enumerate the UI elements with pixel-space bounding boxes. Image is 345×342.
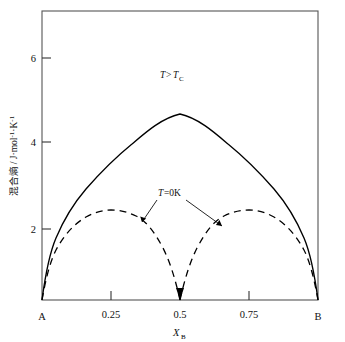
annotation-t-zero-k-op: =0K	[164, 188, 181, 198]
plot-frame	[42, 11, 318, 300]
x-tick-label-05: 0.5	[173, 309, 186, 320]
x-axis-title-sub: B	[181, 333, 186, 341]
x-tick-label-025: 0.25	[102, 309, 120, 320]
y-tick-label-6: 6	[31, 53, 36, 64]
x-tick-label-B: B	[314, 311, 321, 322]
y-tick-label-4: 4	[31, 137, 37, 148]
y-axis-title: 混合熵/ J·mol-1·K-1	[8, 115, 19, 196]
mixing-entropy-chart: 6 4 2 A 0.25 0.5 0.75 B X B 混合熵/ J·mol-1…	[0, 0, 345, 342]
chart-figure: 6 4 2 A 0.25 0.5 0.75 B X B 混合熵/ J·mol-1…	[0, 0, 345, 342]
y-axis-title-mid: ·K	[9, 122, 19, 132]
y-axis-title-cjk: 混合熵	[8, 166, 19, 196]
annotation-t-above-tc-sub: C	[179, 75, 184, 83]
x-axis-title: X B	[172, 327, 186, 341]
annotation-t-above-tc-op: >	[166, 70, 171, 80]
y-tick-label-2: 2	[31, 224, 36, 235]
x-tick-label-075: 0.75	[240, 309, 258, 320]
y-axis-title-exp2: -1	[8, 115, 16, 121]
x-axis-title-main: X	[172, 327, 180, 338]
svg-text:混合熵/ J·mol-1·K-1: 混合熵/ J·mol-1·K-1	[8, 115, 19, 196]
y-axis-title-unit: / J·mol	[9, 137, 19, 164]
x-tick-label-A: A	[38, 311, 46, 322]
